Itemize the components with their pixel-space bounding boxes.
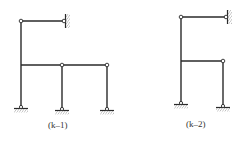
hinge-icon [179,101,182,104]
hinge-icon [19,19,23,23]
hinge-icon [179,15,183,19]
hinge-icon [221,59,225,63]
hinge-icon [19,105,22,108]
pin-support-icon [216,108,230,112]
pin-support-icon [14,109,28,113]
hinge-icon [60,63,64,67]
hinge-icon [221,104,224,107]
frame-k2 [174,10,232,112]
figure-label-k1: (k–1) [48,120,68,130]
hinge-icon [62,19,66,23]
hinge-icon [105,63,109,67]
hinge-icon [60,107,63,110]
pin-support-icon [55,111,69,115]
pin-support-icon [100,111,114,115]
hinge-icon [105,107,108,110]
structural-frames-diagram [0,0,245,142]
frame-k1 [14,14,114,115]
figure-label-k2: (k–2) [186,119,206,129]
pin-support-icon [174,105,188,109]
hinge-icon [224,15,228,19]
